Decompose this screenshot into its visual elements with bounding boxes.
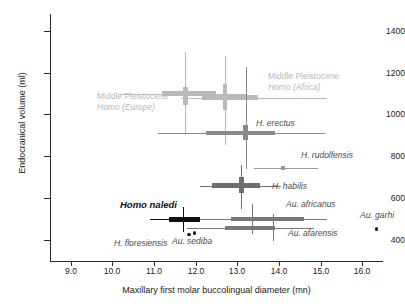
series-label-au-afarensis: Au. afarensis <box>288 228 338 238</box>
x-tick-label-12.0: 12.0 <box>181 266 211 276</box>
series-label-h-floresiensis: H. floresiensis <box>114 238 167 248</box>
x-whisker-h-rudolfensis <box>254 168 319 169</box>
y-box-au-africanus <box>250 217 255 220</box>
y-tick-label-400: 400 <box>363 236 405 244</box>
x-tick-label-9.0: 9.0 <box>56 266 86 276</box>
x-tick-label-11.0: 11.0 <box>139 266 169 276</box>
series-label-line2-middle-pleistocene-homo-europe: Homo (Europe) <box>97 102 168 113</box>
y-box-middle-pleistocene-homo-europe <box>183 87 188 105</box>
y-tick-label-600: 600 <box>363 194 405 202</box>
point-marker-au-garhi <box>375 227 379 231</box>
series-label-h-rudolfensis: H. rudolfensis <box>301 150 353 160</box>
point-marker-au-sediba <box>193 231 197 235</box>
x-tick-label-13.0: 13.0 <box>222 266 252 276</box>
x-box-h-erectus <box>206 131 275 136</box>
series-label-homo-naledi: Homo naledi <box>120 200 177 210</box>
y-box-h-habilis <box>239 177 244 193</box>
y-tick-label-1400: 1400 <box>363 27 405 35</box>
y-tick-600 <box>44 198 50 199</box>
y-box-h-rudolfensis <box>281 167 286 169</box>
y-tick-label-800: 800 <box>363 152 405 160</box>
series-label-line1-middle-pleistocene-homo-africa: Middle Pleistocene <box>268 71 339 82</box>
scatter-plot-canvas: 1400120010008006004009.010.011.012.013.0… <box>0 0 405 306</box>
y-tick-1200 <box>44 73 50 74</box>
x-box-h-habilis <box>212 183 260 188</box>
series-label-h-erectus: H. erectus <box>256 118 295 128</box>
series-label-au-sediba: Au. sediba <box>172 236 212 246</box>
x-tick-label-16.0: 16.0 <box>347 266 377 276</box>
y-tick-label-1200: 1200 <box>363 69 405 77</box>
series-label-line1-middle-pleistocene-homo-europe: Middle Pleistocene <box>97 91 168 102</box>
y-tick-800 <box>44 156 50 157</box>
x-box-au-afarensis <box>225 226 273 231</box>
series-label-au-garhi: Au. garhi <box>360 210 394 220</box>
y-axis-line <box>50 14 51 262</box>
series-label-h-habilis: H. habilis <box>272 181 307 191</box>
y-tick-400 <box>44 240 50 241</box>
x-tick-label-10.0: 10.0 <box>97 266 127 276</box>
series-label-line2-middle-pleistocene-homo-africa: Homo (Africa) <box>268 82 339 93</box>
series-label-middle-pleistocene-homo-europe: Middle PleistoceneHomo (Europe) <box>97 91 168 112</box>
y-box-middle-pleistocene-homo-africa <box>223 84 228 110</box>
x-box-au-africanus <box>231 217 304 222</box>
x-axis-line <box>50 261 383 262</box>
series-label-au-africanus: Au. africanus <box>286 199 336 209</box>
y-tick-label-1000: 1000 <box>363 110 405 118</box>
x-tick-label-14.0: 14.0 <box>264 266 294 276</box>
y-box-h-erectus <box>243 125 248 140</box>
x-tick-label-15.0: 15.0 <box>306 266 336 276</box>
x-box-middle-pleistocene-homo-africa <box>202 95 258 100</box>
y-axis-title: Endocranical volume (ml) <box>17 43 27 203</box>
y-range-h-erectus <box>243 67 248 169</box>
y-tick-1400 <box>44 31 50 32</box>
y-box-homo-naledi <box>181 217 186 220</box>
x-axis-title: Maxillary first molar buccolingual diame… <box>50 285 383 295</box>
y-box-au-afarensis <box>270 226 275 229</box>
y-tick-1000 <box>44 114 50 115</box>
series-label-middle-pleistocene-homo-africa: Middle PleistoceneHomo (Africa) <box>268 71 339 92</box>
